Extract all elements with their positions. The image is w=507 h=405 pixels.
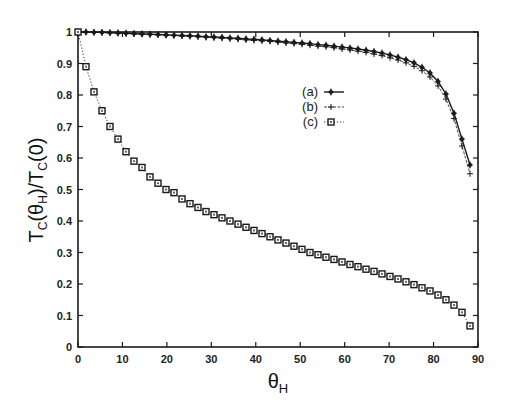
y-axis-title: TC(θH)/TC(0) xyxy=(25,138,50,243)
x-tick-label: 90 xyxy=(472,353,484,365)
y-tick-label: 0 xyxy=(66,341,72,353)
x-axis-title: θH xyxy=(268,370,289,396)
x-tick-label: 70 xyxy=(383,353,395,365)
x-tick-label: 0 xyxy=(75,353,81,365)
y-tick-label: 0.9 xyxy=(57,58,72,70)
legend-item-c: (c) xyxy=(303,114,344,129)
legend: (a)(b)(c) xyxy=(302,84,344,129)
legend-label: (a) xyxy=(302,84,318,99)
y-tick-label: 0.3 xyxy=(57,247,72,259)
x-tick-label: 50 xyxy=(294,353,306,365)
x-tick-label: 20 xyxy=(161,353,173,365)
plot-frame xyxy=(78,32,478,347)
x-tick-label: 10 xyxy=(116,353,128,365)
x-tick-label: 80 xyxy=(427,353,439,365)
x-tick-label: 60 xyxy=(339,353,351,365)
legend-label: (b) xyxy=(302,99,318,114)
legend-item-b: (b) xyxy=(302,99,344,114)
legend-item-a: (a) xyxy=(302,84,344,99)
series-c xyxy=(75,29,473,329)
y-tick-label: 0.4 xyxy=(57,215,73,227)
y-tick-label: 0.6 xyxy=(57,152,72,164)
y-tick-label: 0.5 xyxy=(57,184,72,196)
series-a xyxy=(75,29,472,169)
x-axis: 0102030405060708090 xyxy=(75,32,484,365)
plot-border xyxy=(78,32,478,347)
x-tick-label: 30 xyxy=(205,353,217,365)
chart: 0102030405060708090 00.10.20.30.40.50.60… xyxy=(0,0,507,405)
y-tick-label: 0.7 xyxy=(57,121,72,133)
x-tick-label: 40 xyxy=(250,353,262,365)
y-tick-label: 0.1 xyxy=(57,310,72,322)
legend-label: (c) xyxy=(303,114,318,129)
y-tick-label: 0.2 xyxy=(57,278,72,290)
series-layer xyxy=(75,29,473,329)
y-tick-label: 0.8 xyxy=(57,89,72,101)
series-b xyxy=(75,29,473,177)
svg-text:TC(θH)/TC(0): TC(θH)/TC(0) xyxy=(25,138,50,243)
y-axis: 00.10.20.30.40.50.60.70.80.91 xyxy=(57,26,478,353)
y-tick-label: 1 xyxy=(66,26,72,38)
